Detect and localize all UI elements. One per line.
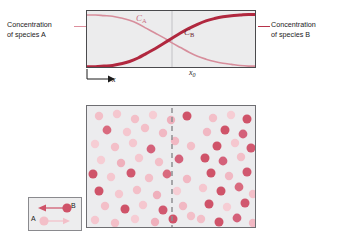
left-axis-label-line2: of species A <box>7 30 46 39</box>
concentration-curves <box>87 11 256 68</box>
particle-dot <box>197 215 205 223</box>
legend-label-b: B <box>71 202 76 209</box>
particle-dot <box>225 172 233 180</box>
particle-dot <box>145 174 153 182</box>
particle-diagram <box>86 105 256 228</box>
particle-dot <box>223 203 231 211</box>
particle-dot <box>209 114 217 122</box>
right-axis-label-line1: Concentration <box>271 20 316 29</box>
particle-dot <box>219 157 228 166</box>
particle-dot <box>241 199 250 208</box>
curve-b-label: CB <box>184 27 194 38</box>
particle-dot <box>217 187 226 196</box>
particle-dot <box>167 116 175 124</box>
curve-species-a <box>87 15 256 66</box>
diffusion-figure: Concentration of species A Concentration… <box>0 0 342 237</box>
particle-dot <box>141 124 149 132</box>
particle-dot <box>107 173 115 181</box>
particle-dot <box>153 191 161 199</box>
particle-dot <box>183 175 191 183</box>
particle-dot <box>159 206 168 215</box>
particle-dot <box>159 129 167 137</box>
particle-dot <box>169 215 178 224</box>
particle-dot <box>249 190 256 198</box>
particle-dot <box>139 201 147 209</box>
particle-dot <box>239 130 248 139</box>
particle-dot <box>179 202 187 210</box>
legend-arrow-b-head-icon <box>38 205 46 212</box>
particle-dot <box>91 140 99 148</box>
particle-dot <box>101 202 109 210</box>
particle-dot <box>207 169 216 178</box>
particle-dot <box>155 158 163 166</box>
particle-dot <box>147 145 156 154</box>
particle-dot <box>227 111 235 119</box>
x0-axis-annotation: x0 <box>189 68 196 78</box>
left-axis-label-line1: Concentration <box>7 20 52 29</box>
particle-dot <box>233 214 242 223</box>
particle-dot <box>243 168 252 177</box>
particle-dot <box>117 159 125 167</box>
right-tick-mark <box>258 26 270 27</box>
concentration-profile-chart <box>86 10 256 68</box>
right-axis-label-line2: of species B <box>271 30 310 39</box>
particle-dot <box>151 218 159 226</box>
particle-dot <box>237 153 245 161</box>
particle-dot <box>127 169 136 178</box>
particle-dot <box>135 154 143 162</box>
particle-dot <box>149 111 157 119</box>
legend-arrow-a-head-icon <box>63 218 70 224</box>
particle-dot <box>133 186 141 194</box>
particle-dot <box>205 200 214 209</box>
particle-dot <box>131 115 139 123</box>
x0-annotation-sub: 0 <box>193 72 196 78</box>
curve-a-label: CA <box>136 13 147 24</box>
particle-dot <box>103 126 112 135</box>
particle-dot <box>221 126 230 135</box>
particle-dot <box>235 183 244 192</box>
particle-dot <box>113 110 121 118</box>
particle-dot <box>123 128 131 136</box>
particle-dot <box>115 190 123 198</box>
left-tick-mark <box>74 26 86 27</box>
particle-dot <box>249 219 256 227</box>
particle-dot <box>199 184 207 192</box>
particle-dot <box>231 139 239 147</box>
particle-dot <box>95 112 103 120</box>
particle-dot <box>97 156 105 164</box>
particle-dot <box>111 143 119 151</box>
particle-dot <box>173 187 181 195</box>
particle-dot <box>215 218 224 227</box>
particle-dot <box>175 155 184 164</box>
particle-dot <box>243 115 252 124</box>
particle-dot <box>187 142 195 150</box>
particle-dot <box>89 170 98 179</box>
particle-dot <box>247 144 256 153</box>
particle-dot <box>203 128 211 136</box>
particle-dot <box>131 215 139 223</box>
particle-dot <box>121 205 130 214</box>
particle-dot <box>213 142 222 151</box>
particle-dot <box>163 170 172 179</box>
right-axis-label: Concentration of species B <box>271 20 316 39</box>
left-axis-label: Concentration of species A <box>7 20 52 39</box>
particle-dot <box>129 139 137 147</box>
x-axis-label: x <box>112 75 116 84</box>
particle-dot <box>183 112 192 121</box>
particle-dot <box>95 187 104 196</box>
particle-field <box>87 106 256 228</box>
particle-dot <box>91 216 99 224</box>
particle-dot <box>201 154 210 163</box>
curve-a-label-sub: A <box>142 17 147 24</box>
particle-dot <box>111 219 119 227</box>
curve-species-b <box>87 14 256 66</box>
legend-label-a: A <box>31 215 36 222</box>
particle-dot <box>187 212 195 220</box>
curve-b-label-sub: B <box>190 31 194 38</box>
